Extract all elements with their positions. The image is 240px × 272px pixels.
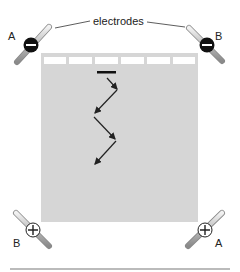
bottom-divider [10, 268, 230, 270]
dna-band [97, 71, 116, 74]
leader-line-left [55, 21, 90, 28]
label-a-bottom: A [215, 237, 223, 249]
label-b-bottom: B [13, 237, 20, 249]
label-a-top: A [8, 30, 16, 42]
gel [41, 53, 198, 222]
label-b-top: B [215, 30, 222, 42]
electrodes-label: electrodes [93, 15, 144, 27]
leader-line-right [147, 22, 185, 27]
electrophoresis-diagram: electrodes A B B A [0, 0, 240, 272]
